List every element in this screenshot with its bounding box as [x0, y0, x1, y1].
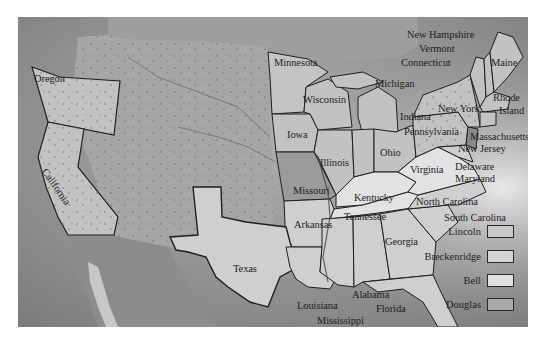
label-rhode-island-line1: Rhode — [493, 93, 520, 104]
label-massachusetts: Massachusetts — [470, 132, 528, 143]
label-new-york: New York — [438, 104, 480, 115]
label-missouri: Missouri — [293, 186, 330, 197]
label-virginia: Virginia — [410, 165, 443, 176]
label-kentucky: Kentucky — [354, 193, 394, 204]
label-texas: Texas — [233, 264, 257, 275]
legend-item-bell: Bell — [464, 274, 515, 287]
legend-item-douglas: Douglas — [446, 298, 514, 311]
label-illinois: Illinois — [320, 158, 349, 169]
label-georgia: Georgia — [385, 237, 418, 248]
label-rhode-island-line2: Island — [499, 106, 524, 117]
legend-swatch-lincoln — [487, 225, 514, 238]
state-connecticut — [480, 112, 496, 127]
legend-swatch-douglas — [487, 298, 514, 311]
label-south-carolina: South Carolina — [444, 213, 506, 224]
legend-swatch-breckenridge — [487, 250, 514, 263]
label-maine: Maine — [491, 58, 517, 69]
legend-item-breckenridge: Breckenridge — [424, 250, 514, 263]
label-vermont: Vermont — [419, 44, 454, 55]
label-wisconsin: Wisconsin — [303, 95, 346, 106]
label-michigan: Michigan — [375, 79, 414, 90]
legend-label: Lincoln — [448, 226, 481, 237]
label-alabama: Alabama — [352, 290, 389, 301]
legend-label: Bell — [464, 275, 482, 286]
legend-item-lincoln: Lincoln — [448, 225, 514, 238]
label-arkansas: Arkansas — [294, 220, 332, 231]
state-indiana — [352, 129, 374, 177]
legend-swatch-bell — [487, 274, 514, 287]
label-connecticut: Connecticut — [401, 58, 451, 69]
label-mississippi: Mississippi — [317, 316, 364, 327]
label-tennessee: Tennessee — [344, 212, 386, 223]
label-louisiana: Louisiana — [297, 301, 338, 312]
label-indiana: Indiana — [400, 112, 431, 123]
legend-label: Breckenridge — [424, 251, 481, 262]
label-iowa: Iowa — [287, 130, 308, 141]
label-north-carolina: North Carolina — [416, 197, 478, 208]
label-maryland: Maryland — [455, 174, 495, 185]
label-oregon: Oregon — [34, 74, 65, 85]
label-florida: Florida — [376, 304, 406, 315]
label-new-jersey: New Jersey — [458, 144, 506, 155]
legend-label: Douglas — [446, 299, 481, 310]
label-minnesota: Minnesota — [274, 58, 317, 69]
election-map: Oregon California Minnesota Wisconsin Mi… — [18, 17, 528, 327]
label-pennsylvania: Pennsylvania — [404, 127, 459, 138]
label-ohio: Ohio — [380, 148, 401, 159]
map-graphic — [18, 17, 528, 327]
label-delaware: Delaware — [455, 162, 494, 173]
label-new-hampshire: New Hampshire — [407, 30, 474, 41]
